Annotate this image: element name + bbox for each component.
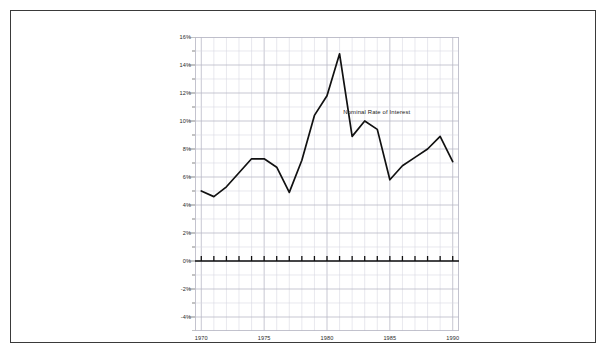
- y-axis-tick-label: -4%: [161, 314, 191, 320]
- y-axis-tick-label: 6%: [161, 174, 191, 180]
- x-axis-tick-label: 1980: [312, 335, 342, 341]
- x-axis-tick-label: 1975: [249, 335, 279, 341]
- y-axis-tick-label: 16%: [161, 34, 191, 40]
- y-axis-tick-label: 0%: [161, 258, 191, 264]
- y-axis-tick-label: 4%: [161, 202, 191, 208]
- y-axis-ticks: [189, 37, 197, 331]
- y-axis-tick-label: 12%: [161, 90, 191, 96]
- y-axis-tick-label: 8%: [161, 146, 191, 152]
- plot-area: [195, 37, 459, 331]
- interest-rate-line-chart: 16%14%12%10%8%6%4%2%0%-2%-4% 19701975198…: [161, 27, 481, 347]
- page-frame-border: 16%14%12%10%8%6%4%2%0%-2%-4% 19701975198…: [10, 10, 596, 343]
- series-inline-label: Nominal Rate of Interest: [343, 109, 410, 115]
- x-axis-tick-label: 1970: [186, 335, 216, 341]
- y-axis-tick-label: 14%: [161, 62, 191, 68]
- x-axis-tick-label: 1990: [438, 335, 468, 341]
- y-axis-tick-label: 10%: [161, 118, 191, 124]
- chart-page: 16%14%12%10%8%6%4%2%0%-2%-4% 19701975198…: [0, 0, 609, 354]
- x-axis-tick-label: 1985: [375, 335, 405, 341]
- nominal-rate-series-line: [195, 37, 459, 331]
- y-axis-tick-label: -2%: [161, 286, 191, 292]
- y-axis-tick-label: 2%: [161, 230, 191, 236]
